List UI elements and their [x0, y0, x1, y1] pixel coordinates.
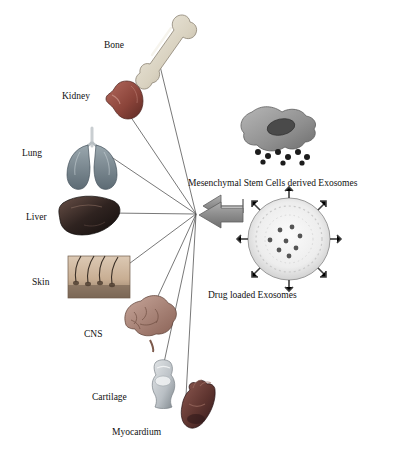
- connector-bone: [160, 66, 196, 214]
- label-myocardium: Myocardium: [112, 427, 161, 437]
- label-cartilage: Cartilage: [92, 392, 127, 402]
- bone-illustration: [136, 15, 197, 89]
- connector-cns: [146, 214, 196, 322]
- caption-drug-loaded-exosomes: Drug loaded Exosomes: [208, 290, 297, 300]
- kidney-illustration: [106, 81, 143, 119]
- cartilage-illustration: [152, 360, 174, 409]
- connector-lung: [104, 152, 196, 214]
- figure-canvas: Bone Kidney Lung Liver Skin CNS Cartilag…: [0, 0, 408, 462]
- label-liver: Liver: [26, 212, 47, 222]
- skin-illustration: [68, 256, 130, 298]
- drug-loaded-exosome-illustration: [237, 187, 341, 291]
- caption-msc-exosomes: Mesenchymal Stem Cells derived Exosomes: [188, 178, 357, 188]
- flow-arrow: [199, 195, 243, 232]
- connector-lines: [0, 0, 408, 462]
- connector-liver: [110, 213, 196, 214]
- label-kidney: Kidney: [62, 91, 90, 101]
- connector-skin: [118, 214, 196, 272]
- liver-illustration: [59, 196, 120, 235]
- msc-cell-illustration: [241, 107, 316, 166]
- label-lung: Lung: [22, 148, 42, 158]
- connector-myocardium: [186, 214, 196, 396]
- lung-illustration: [67, 128, 117, 189]
- organ-illustrations: [0, 0, 408, 462]
- exosome-dots: [255, 149, 310, 166]
- connector-kidney: [122, 104, 196, 214]
- cns-illustration: [125, 296, 177, 352]
- label-skin: Skin: [32, 277, 49, 287]
- label-bone: Bone: [104, 40, 124, 50]
- drug-cargo: [268, 225, 303, 259]
- connector-cartilage: [162, 214, 196, 372]
- myocardium-illustration: [181, 380, 215, 428]
- label-cns: CNS: [84, 329, 102, 339]
- surface-proteins: [237, 187, 341, 291]
